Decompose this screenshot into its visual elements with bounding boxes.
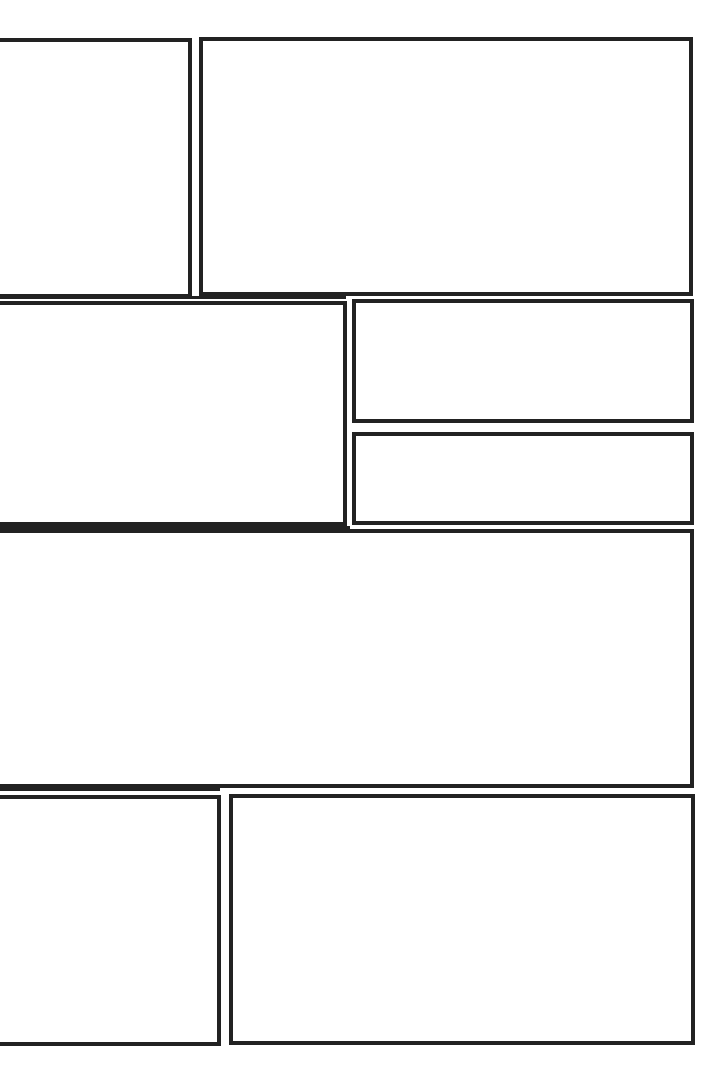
row-divider (0, 788, 220, 791)
panel-1 (0, 38, 192, 298)
panel-8 (229, 794, 695, 1045)
panel-5 (352, 432, 694, 525)
panel-3 (0, 301, 347, 526)
panel-2 (199, 37, 693, 296)
row-divider (0, 296, 346, 299)
panel-6 (0, 529, 694, 788)
panel-7 (0, 795, 221, 1046)
panel-4 (352, 299, 694, 423)
